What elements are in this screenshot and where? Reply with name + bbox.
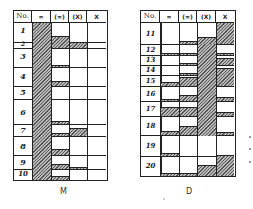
scan-speck	[249, 136, 251, 138]
row-number: 11	[141, 29, 160, 38]
hatched-bar	[70, 167, 87, 169]
row-divider	[14, 155, 106, 156]
scan-speck	[163, 198, 165, 200]
hatched-bar	[217, 112, 234, 116]
row-number: 20	[141, 161, 160, 170]
header-no: No.	[141, 11, 160, 23]
hatched-bar	[217, 155, 234, 176]
row-number: 17	[141, 104, 160, 113]
row-divider	[14, 48, 106, 49]
hatched-bar	[180, 126, 197, 135]
hatched-bar	[33, 23, 51, 180]
hatched-bar	[217, 97, 234, 101]
hatched-bar	[198, 37, 216, 44]
table-m-caption: M	[60, 187, 67, 196]
table-d-header: No. = (=) (X) X	[141, 11, 234, 23]
hatched-bar	[180, 173, 197, 176]
hatched-bar	[161, 53, 179, 55]
table-m: No. = (=) (X) X 1 2 3 4 5 6 7 8 9 10	[13, 10, 108, 181]
header-paren-equal: (=)	[51, 11, 69, 23]
row-number: 14	[141, 65, 160, 74]
hatched-bar	[217, 68, 234, 86]
row-number: 4	[14, 71, 32, 81]
row-number: 18	[141, 121, 160, 130]
row-divider	[141, 101, 234, 102]
header-paren-equal: (=)	[179, 11, 197, 23]
hatched-bar	[161, 107, 179, 116]
hatched-bar	[161, 173, 179, 176]
grid-line	[87, 23, 88, 180]
header-paren-x: (X)	[197, 11, 216, 23]
header-no: No.	[14, 11, 32, 23]
scan-speck	[249, 148, 251, 150]
hatched-bar	[198, 165, 216, 176]
row-number: 2	[14, 40, 32, 47]
header-x: X	[216, 11, 234, 23]
hatched-bar	[217, 23, 234, 44]
hatched-bar	[161, 99, 179, 101]
hatched-bar	[52, 149, 69, 155]
hatched-bar	[180, 107, 197, 116]
hatched-bar	[52, 81, 69, 86]
hatched-bar	[52, 176, 69, 180]
hatched-bar	[180, 63, 197, 65]
row-number: 15	[141, 76, 160, 85]
hatched-bar	[217, 53, 234, 55]
table-d: No. = (=) (X) X 11 12 13 14 15 16 17 18 …	[140, 10, 236, 177]
row-number: 19	[141, 141, 160, 150]
hatched-bar	[161, 131, 179, 135]
row-divider	[14, 67, 106, 68]
header-equal: =	[160, 11, 179, 23]
row-number: 13	[141, 55, 160, 64]
row-number: 16	[141, 89, 160, 98]
row-number: 6	[14, 107, 32, 117]
hatched-bar	[70, 42, 87, 48]
row-number: 5	[14, 87, 32, 97]
hatched-bar	[161, 82, 179, 86]
hatched-bar	[217, 58, 234, 65]
hatched-bar	[161, 153, 179, 156]
row-number: 10	[14, 169, 32, 178]
hatched-bar	[180, 53, 197, 55]
hatched-bar	[180, 41, 197, 44]
row-number: 1	[14, 25, 32, 35]
row-divider	[141, 135, 234, 136]
hatched-bar	[52, 65, 69, 67]
row-number: 8	[14, 141, 32, 151]
hatched-bar	[52, 164, 69, 169]
hatched-bar	[180, 77, 197, 86]
table-m-header: No. = (=) (X) X	[14, 11, 106, 23]
hatched-bar	[198, 44, 216, 136]
row-divider	[141, 86, 234, 87]
row-divider	[14, 136, 106, 137]
scan-speck	[249, 161, 251, 163]
row-number: 12	[141, 45, 160, 54]
header-equal: =	[32, 11, 51, 23]
hatched-bar	[180, 95, 197, 101]
hatched-bar	[70, 128, 87, 136]
hatched-bar	[52, 121, 69, 124]
hatched-bar	[180, 73, 197, 75]
row-number: 9	[14, 157, 32, 167]
row-number: 3	[14, 51, 32, 61]
table-d-caption: D	[186, 187, 192, 196]
hatched-bar	[52, 133, 69, 136]
row-divider	[14, 99, 106, 100]
row-divider	[141, 116, 234, 117]
row-number: 7	[14, 125, 32, 135]
hatched-bar	[52, 36, 69, 48]
hatched-bar	[217, 132, 234, 135]
header-x: X	[87, 11, 106, 23]
header-paren-x: (X)	[69, 11, 87, 23]
